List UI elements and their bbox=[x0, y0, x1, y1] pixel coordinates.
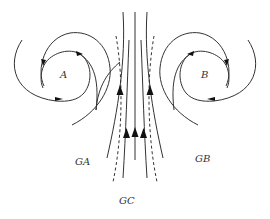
arrow-jet-right bbox=[140, 128, 147, 138]
label-vortex-a: A bbox=[60, 70, 67, 80]
label-region-gb: GB bbox=[195, 154, 210, 164]
arrow-left-stream bbox=[117, 85, 124, 95]
arrow-a-bottom bbox=[55, 97, 63, 101]
arrow-jet-left bbox=[123, 128, 130, 138]
arrow-jet-center bbox=[132, 127, 139, 137]
label-region-gc: GC bbox=[119, 196, 135, 206]
flow-diagram-canvas bbox=[0, 0, 270, 219]
central-jet bbox=[96, 12, 163, 182]
arrow-b-bottom bbox=[207, 97, 215, 101]
flow-diagram: A B GA GB GC bbox=[0, 0, 270, 219]
label-region-ga: GA bbox=[75, 157, 90, 167]
label-vortex-b: B bbox=[201, 70, 208, 80]
arrow-right-stream bbox=[147, 85, 154, 95]
